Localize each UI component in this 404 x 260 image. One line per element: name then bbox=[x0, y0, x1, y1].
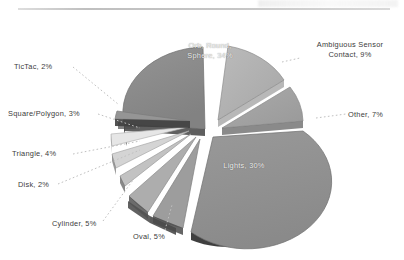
pie-chart: TicTac, 2% Square/Polygon, 3% Triangle, … bbox=[0, 0, 404, 260]
leader-other bbox=[316, 114, 346, 118]
slice-label-square-polygon: Square/Polygon, 3% bbox=[8, 109, 80, 119]
slice-label-other: Other, 7% bbox=[348, 110, 383, 120]
slice-label-triangle: Triangle, 4% bbox=[12, 149, 56, 159]
slice-label-orb-round-sphere: Orb, Round, Sphere, 34% bbox=[168, 41, 252, 61]
pie-plot-area: TicTac, 2% Square/Polygon, 3% Triangle, … bbox=[0, 0, 404, 260]
leader-ambiguous bbox=[282, 58, 300, 62]
slice-label-lights: Lights, 30% bbox=[208, 161, 280, 171]
slice-label-tictac: TicTac, 2% bbox=[14, 62, 52, 72]
leader-tictac bbox=[73, 67, 118, 104]
slice-label-disk: Disk, 2% bbox=[18, 180, 49, 190]
slice-label-orb-line2: Sphere, 34% bbox=[168, 51, 252, 61]
slice-label-ambiguous-sensor-contact: Ambiguous Sensor Contact, 9% bbox=[302, 40, 398, 60]
slice-label-ambiguous-line1: Ambiguous Sensor bbox=[302, 40, 398, 50]
slice-label-oval: Oval, 5% bbox=[133, 232, 165, 242]
slice-label-orb-line1: Orb, Round, bbox=[168, 41, 252, 51]
slice-lights[interactable] bbox=[191, 131, 332, 249]
slice-label-cylinder: Cylinder, 5% bbox=[52, 219, 97, 229]
slice-label-ambiguous-line2: Contact, 9% bbox=[302, 50, 398, 60]
